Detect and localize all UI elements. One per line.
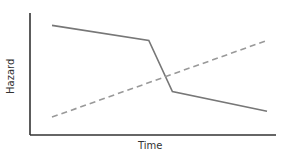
dashed-hazard-line (52, 41, 267, 118)
solid-hazard-line (52, 25, 267, 111)
hazard-chart (0, 0, 292, 159)
y-axis-label: Hazard (5, 59, 16, 94)
x-axis-label: Time (138, 140, 162, 151)
